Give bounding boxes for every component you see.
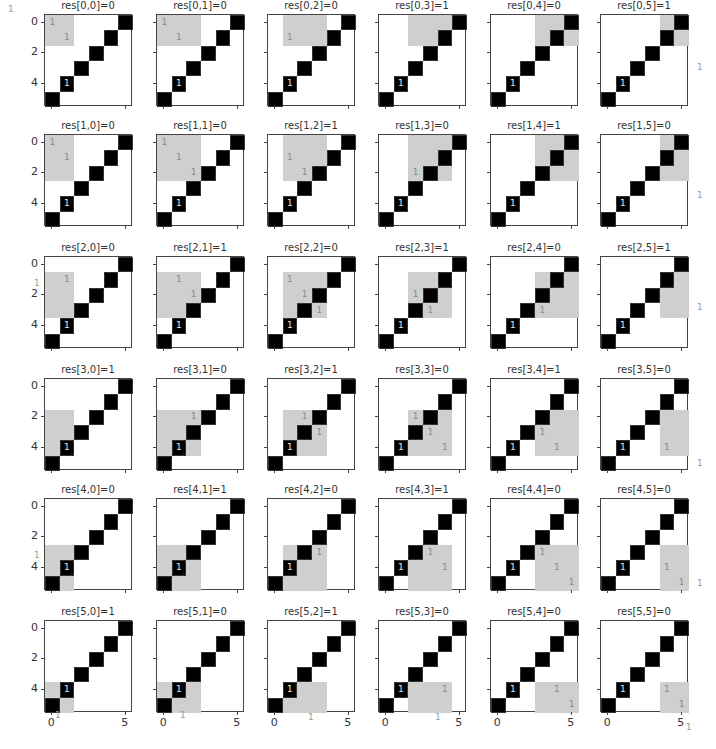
black-cell [297, 61, 312, 76]
black-cell [660, 150, 675, 165]
y-tick-label: 4 [24, 76, 38, 89]
y-tick-mark [375, 536, 378, 537]
y-tick-mark [597, 22, 600, 23]
black-cell [186, 61, 201, 76]
y-tick-mark [41, 386, 44, 387]
black-cell [104, 514, 119, 529]
y-tick-mark [375, 172, 378, 173]
y-tick-mark [597, 536, 600, 537]
cell-annotation: 1 [45, 18, 60, 27]
y-tick-mark [153, 416, 156, 417]
cell-annotation: 1 [186, 412, 201, 421]
y-tick-mark [597, 447, 600, 448]
y-tick-mark [264, 22, 267, 23]
y-tick-mark [153, 628, 156, 629]
cell-annotation: 1 [283, 275, 298, 284]
x-tick-mark [681, 712, 682, 715]
black-cell [674, 499, 689, 514]
black-cell [550, 394, 565, 409]
subplot: res[1,2]=1111 [237, 120, 365, 246]
black-cell [186, 545, 201, 560]
subplot: res[0,4]=01 [460, 0, 588, 126]
y-tick-mark [264, 294, 267, 295]
y-tick-mark [375, 447, 378, 448]
black-cell [491, 576, 506, 591]
y-tick-mark [487, 172, 490, 173]
cell-annotation: 1 [394, 199, 409, 208]
black-cell [268, 334, 283, 349]
black-cell [379, 334, 394, 349]
black-cell [601, 576, 616, 591]
subplot-title: res[1,1]=0 [156, 120, 244, 131]
subplot: res[2,1]=1111 [126, 242, 254, 368]
stray-annotation: 1 [697, 190, 703, 200]
x-tick-mark [497, 348, 498, 351]
subplot-title: res[2,2]=0 [267, 242, 355, 253]
y-tick-mark [597, 203, 600, 204]
x-tick-mark [385, 470, 386, 473]
black-cell [408, 425, 423, 440]
y-tick-mark [487, 689, 490, 690]
black-cell [645, 410, 660, 425]
black-cell [660, 514, 675, 529]
x-tick-label: 0 [156, 716, 170, 729]
x-tick-mark [681, 106, 682, 109]
subplot: res[4,0]=01024 [14, 484, 142, 610]
stray-annotation: 1 [308, 712, 314, 722]
heatmap-axes: 1 [600, 134, 688, 226]
cell-annotation: 1 [550, 685, 565, 694]
black-cell [550, 30, 565, 45]
y-tick-mark [375, 658, 378, 659]
y-tick-mark [375, 203, 378, 204]
black-cell [491, 212, 506, 227]
cell-annotation: 1 [423, 548, 438, 557]
y-tick-mark [264, 172, 267, 173]
stray-annotation: 1 [180, 710, 186, 720]
y-tick-label: 0 [24, 257, 38, 270]
black-cell [630, 425, 645, 440]
black-cell [438, 272, 453, 287]
y-tick-mark [153, 689, 156, 690]
y-tick-label: 4 [24, 440, 38, 453]
cell-annotation: 1 [312, 428, 327, 437]
black-cell [45, 576, 60, 591]
black-cell [157, 576, 172, 591]
black-cell [74, 425, 89, 440]
cell-annotation: 1 [616, 685, 631, 694]
x-tick-mark [681, 470, 682, 473]
black-cell [157, 92, 172, 107]
x-tick-mark [497, 590, 498, 593]
black-cell [660, 30, 675, 45]
y-tick-mark [41, 416, 44, 417]
subplot-title: res[0,4]=0 [490, 0, 578, 11]
y-tick-mark [41, 264, 44, 265]
x-tick-mark [51, 226, 52, 229]
cell-annotation: 1 [408, 412, 423, 421]
y-tick-mark [264, 203, 267, 204]
black-cell [216, 30, 231, 45]
black-cell [645, 652, 660, 667]
y-tick-mark [487, 264, 490, 265]
x-tick-mark [163, 226, 164, 229]
cell-annotation: 1 [408, 168, 423, 177]
x-tick-mark [51, 106, 52, 109]
cell-annotation: 1 [60, 321, 75, 330]
y-tick-mark [597, 416, 600, 417]
subplot: res[2,0]=011024 [14, 242, 142, 368]
cell-annotation: 1 [60, 199, 75, 208]
y-tick-mark [264, 658, 267, 659]
y-tick-mark [597, 658, 600, 659]
black-cell [104, 636, 119, 651]
y-tick-mark [487, 203, 490, 204]
y-tick-mark [264, 628, 267, 629]
subplot: res[2,4]=011 [460, 242, 588, 368]
heatmap-axes: 111 [378, 256, 466, 348]
subplot-title: res[4,4]=0 [490, 484, 578, 495]
y-tick-mark [153, 52, 156, 53]
cell-annotation: 1 [616, 563, 631, 572]
black-cell [423, 288, 438, 303]
x-tick-label: 0 [490, 716, 504, 729]
x-tick-mark [607, 348, 608, 351]
heatmap-axes: 11 [267, 498, 355, 590]
y-tick-label: 2 [24, 287, 38, 300]
